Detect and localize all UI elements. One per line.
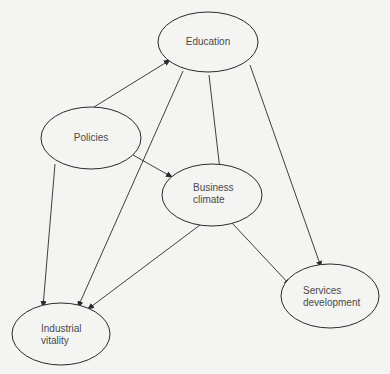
node-business-climate: Business climate	[162, 164, 262, 226]
node-services-development-label-line1: Services	[303, 285, 341, 296]
node-industrial-vitality-label-line2: vitality	[41, 335, 69, 346]
edge-policies-to-business-climate	[133, 155, 172, 177]
node-industrial-vitality-label-line1: Industrial	[41, 323, 82, 334]
svg-text:Policies: Policies	[74, 132, 108, 143]
node-education: Education	[158, 12, 258, 72]
svg-text:Industrial: Industrial	[41, 323, 82, 334]
svg-text:Business: Business	[193, 182, 234, 193]
node-education-label: Education	[186, 36, 230, 47]
node-policies: Policies	[41, 107, 141, 169]
node-business-climate-label-line2: climate	[193, 194, 225, 205]
svg-text:Services: Services	[303, 285, 341, 296]
svg-text:climate: climate	[193, 194, 225, 205]
node-services-development: Services development	[281, 264, 379, 328]
edge-business-climate-to-industrial-vitality	[88, 225, 200, 309]
svg-text:vitality: vitality	[41, 335, 69, 346]
edge-education-to-business-climate	[209, 75, 220, 170]
node-business-climate-label-line1: Business	[193, 182, 234, 193]
edge-business-climate-to-services-development	[232, 223, 290, 285]
node-policies-label: Policies	[74, 132, 108, 143]
node-services-development-label-line2: development	[303, 297, 360, 308]
diagram-canvas: Education Policies Business climate Serv…	[0, 0, 390, 374]
node-industrial-vitality: Industrial vitality	[12, 303, 110, 365]
edge-policies-to-education	[94, 60, 170, 107]
edge-policies-to-industrial-vitality	[43, 164, 55, 307]
svg-text:development: development	[303, 297, 360, 308]
svg-text:Education: Education	[186, 36, 230, 47]
edge-education-to-services-development	[250, 65, 321, 267]
